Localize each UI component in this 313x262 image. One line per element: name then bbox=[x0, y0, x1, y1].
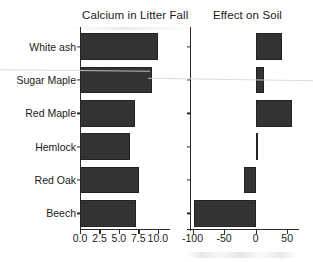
category-axis-labels: White ashSugar MapleRed MapleHemlockRed … bbox=[0, 0, 76, 262]
x-tick-label: -50 bbox=[216, 232, 231, 244]
y-tick-mark bbox=[187, 46, 191, 47]
bar bbox=[80, 133, 130, 160]
chart-figure: Calcium in Litter Fall Effect on Soil Wh… bbox=[0, 0, 313, 262]
bar bbox=[256, 33, 283, 60]
left-panel-x-tick-labels: 0.02.55.07.510.0 bbox=[80, 232, 170, 248]
category-label: Sugar Maple bbox=[4, 74, 76, 86]
category-label: Hemlock bbox=[4, 141, 76, 153]
x-tick-label: 10.0 bbox=[148, 232, 168, 244]
x-tick-label: 2.5 bbox=[92, 232, 107, 244]
panel-calcium-in-litter-fall bbox=[80, 30, 164, 230]
x-tick-label: 0.0 bbox=[73, 232, 88, 244]
category-label: Beech bbox=[4, 207, 76, 219]
category-label: White ash bbox=[4, 41, 76, 53]
right-panel-y-axis bbox=[190, 27, 191, 231]
scan-artifact-smudge-bottom bbox=[188, 252, 298, 258]
category-label: Red Maple bbox=[4, 107, 76, 119]
bar bbox=[80, 33, 158, 60]
right-panel-x-tick-labels: -100-50050 bbox=[190, 232, 302, 248]
bar bbox=[194, 200, 256, 227]
x-tick-label: 5.0 bbox=[112, 232, 127, 244]
bar bbox=[80, 167, 139, 194]
panel-effect-on-soil bbox=[190, 30, 296, 230]
bar bbox=[80, 200, 136, 227]
x-tick-label: -100 bbox=[182, 232, 203, 244]
bar bbox=[256, 67, 264, 94]
y-tick-mark bbox=[187, 79, 191, 80]
bar bbox=[80, 67, 152, 94]
panel-title-soil: Effect on Soil bbox=[213, 9, 282, 21]
bar bbox=[256, 100, 293, 127]
bar bbox=[244, 167, 255, 194]
category-label: Red Oak bbox=[4, 174, 76, 186]
x-tick-label: 0 bbox=[253, 232, 259, 244]
y-tick-mark bbox=[187, 113, 191, 114]
y-tick-mark bbox=[187, 179, 191, 180]
x-tick-label: 7.5 bbox=[131, 232, 146, 244]
bar bbox=[256, 133, 258, 160]
y-tick-mark bbox=[187, 146, 191, 147]
y-tick-mark bbox=[187, 213, 191, 214]
left-panel-x-axis bbox=[80, 229, 170, 230]
x-tick-label: 50 bbox=[281, 232, 293, 244]
right-panel-x-axis bbox=[187, 229, 299, 230]
panel-title-calcium: Calcium in Litter Fall bbox=[82, 9, 188, 21]
bar bbox=[80, 100, 135, 127]
